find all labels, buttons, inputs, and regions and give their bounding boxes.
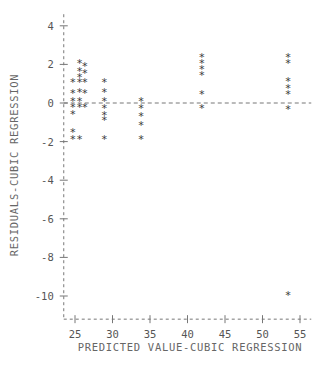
x-tick-label: 45 [219,328,232,340]
data-point-marker: * [198,102,205,115]
y-tick-label: 4 [47,20,53,32]
y-tick-label: -6 [41,213,54,225]
y-axis-tick-labels: 420-2-4-6-8-10 [35,20,54,302]
y-tick-label: -2 [41,136,54,148]
data-point-marker: * [285,88,292,101]
x-tick-label: 50 [256,328,269,340]
data-point-marker: * [76,133,83,146]
x-tick-label: 35 [144,328,157,340]
data-point-marker: * [138,133,145,146]
data-point-marker: * [138,119,145,132]
y-tick-label: -8 [41,251,54,263]
data-point-marker: * [101,114,108,127]
data-point-marker: * [69,108,76,121]
y-axis-title: RESIDUALS-CUBIC REGRESSION [8,74,20,257]
data-point-group: ****************************************… [69,51,291,302]
data-point-marker: * [198,88,205,101]
x-tick-label: 40 [181,328,194,340]
data-point-marker: * [285,289,292,302]
data-point-marker: * [285,103,292,116]
data-point-marker: * [285,57,292,70]
data-point-marker: * [69,133,76,146]
data-point-marker: * [198,69,205,82]
y-tick-label: 0 [47,97,53,109]
data-point-marker: * [81,87,88,100]
y-tick-label: -10 [35,290,54,302]
x-tick-label: 30 [106,328,119,340]
y-tick-label: -4 [41,174,54,186]
data-point-marker: * [81,101,88,114]
residual-scatter-plot: 420-2-4-6-8-10 25303540455055 **********… [0,0,335,368]
x-tick-label: 55 [294,328,307,340]
y-tick-label: 2 [47,58,53,70]
data-point-marker: * [101,133,108,146]
x-tick-label: 25 [69,328,82,340]
chart-canvas: 420-2-4-6-8-10 25303540455055 **********… [0,0,335,368]
x-axis-tick-labels: 25303540455055 [69,328,307,340]
x-axis-title: PREDICTED VALUE-CUBIC REGRESSION [78,341,303,353]
